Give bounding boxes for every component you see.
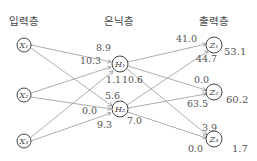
edge-x2-h1 xyxy=(31,67,111,93)
node-h2-label: H₂ xyxy=(114,105,125,114)
edge-h1-z1 xyxy=(128,44,206,62)
weight-x3-h1: 1.1 xyxy=(106,74,121,85)
weight-x3-h2: 9.3 xyxy=(97,119,112,130)
weight-h1-z3: 10.6 xyxy=(122,74,143,85)
weight-h2-z3: 7.0 xyxy=(127,115,142,126)
header-hidden-layer: 은닉층 xyxy=(104,13,134,28)
weight-z3-top: 3.9 xyxy=(202,122,217,133)
weight-x2-h2: 0.0 xyxy=(82,105,97,116)
node-x1-label: X₁ xyxy=(19,41,29,50)
node-z1-label: Z₁ xyxy=(209,41,219,50)
weight-x1-h2: 5.6 xyxy=(105,90,120,101)
weight-h1-z1: 41.0 xyxy=(176,33,197,44)
header-input-layer: 입력층 xyxy=(9,13,39,28)
weight-z3-bottom: 0.0 xyxy=(188,143,203,154)
node-z2-label: Z₂ xyxy=(209,88,219,97)
node-x2-label: X₂ xyxy=(19,91,29,100)
edge-x2-h2 xyxy=(31,97,111,109)
node-h1-label: H₁ xyxy=(114,60,125,69)
weight-x2-h1: 10.3 xyxy=(80,55,101,66)
node-x3-label: X₃ xyxy=(19,137,29,146)
header-output-layer: 출력층 xyxy=(199,13,229,28)
weight-h1-z2: 0.0 xyxy=(194,74,209,85)
weight-h2-z2: 63.5 xyxy=(187,98,208,109)
node-z3-label: Z₃ xyxy=(209,135,219,144)
output-z3-value: 1.7 xyxy=(232,143,248,154)
output-z2-value: 60.2 xyxy=(226,94,248,105)
output-z1-value: 53.1 xyxy=(224,46,246,57)
weight-x1-h1: 8.9 xyxy=(96,42,111,53)
weight-h2-z1: 44.7 xyxy=(196,53,217,64)
